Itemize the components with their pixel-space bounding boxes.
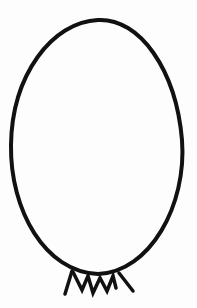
right-leg xyxy=(119,273,133,291)
egg-drawing xyxy=(0,0,197,308)
drawing-canvas: egg-shaped oval with zigzag crown of leg… xyxy=(0,0,197,308)
egg-outline xyxy=(11,20,182,274)
left-leg xyxy=(65,271,72,294)
